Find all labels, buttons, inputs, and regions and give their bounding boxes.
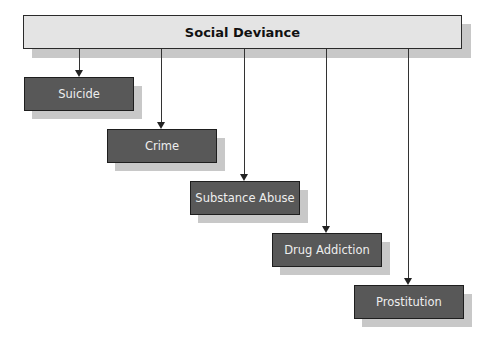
arrowhead-crime bbox=[157, 122, 165, 129]
root-node-social-deviance: Social Deviance bbox=[23, 15, 462, 49]
node-substance-abuse: Substance Abuse bbox=[190, 181, 300, 215]
node-prostitution: Prostitution bbox=[354, 285, 464, 319]
connector-crime bbox=[161, 49, 162, 122]
arrowhead-prostitution bbox=[404, 278, 412, 285]
connector-prostitution bbox=[408, 49, 409, 278]
node-label: Crime bbox=[145, 139, 179, 153]
node-label: Drug Addiction bbox=[284, 243, 370, 257]
node-label: Prostitution bbox=[376, 295, 442, 309]
arrowhead-drug-addiction bbox=[322, 226, 330, 233]
node-crime: Crime bbox=[107, 129, 217, 163]
connector-drug-addiction bbox=[326, 49, 327, 226]
connector-substance-abuse bbox=[244, 49, 245, 174]
node-drug-addiction: Drug Addiction bbox=[272, 233, 382, 267]
connector-suicide bbox=[79, 49, 80, 70]
arrowhead-suicide bbox=[75, 70, 83, 77]
node-label: Substance Abuse bbox=[195, 191, 294, 205]
node-suicide: Suicide bbox=[24, 77, 134, 111]
arrowhead-substance-abuse bbox=[240, 174, 248, 181]
root-label: Social Deviance bbox=[185, 25, 300, 40]
node-label: Suicide bbox=[58, 87, 100, 101]
